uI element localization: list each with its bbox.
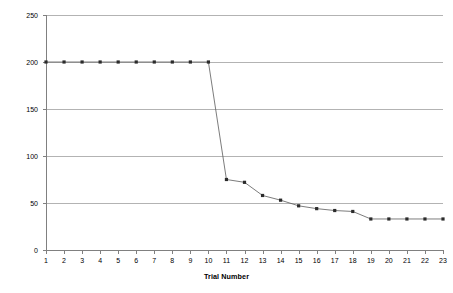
data-point-marker [80,60,83,63]
data-point-marker [153,60,156,63]
data-series [0,0,453,293]
data-point-marker [351,210,354,213]
data-point-marker [44,60,47,63]
series-line [46,62,443,219]
data-point-marker [117,60,120,63]
data-point-marker [333,209,336,212]
data-point-marker [171,60,174,63]
data-point-marker [189,60,192,63]
data-point-marker [62,60,65,63]
data-point-marker [369,217,372,220]
data-point-marker [261,194,264,197]
data-point-marker [423,217,426,220]
data-point-marker [135,60,138,63]
data-point-marker [387,217,390,220]
data-point-marker [297,204,300,207]
data-point-marker [315,207,318,210]
data-point-marker [279,199,282,202]
data-point-marker [405,217,408,220]
data-point-marker [225,178,228,181]
line-chart: 050100150200250 123456789101112131415161… [0,0,453,293]
data-point-marker [243,181,246,184]
data-point-marker [207,60,210,63]
data-point-marker [99,60,102,63]
data-point-marker [441,217,444,220]
